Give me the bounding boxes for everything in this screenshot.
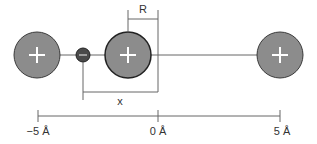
diagram-canvas: R x −5 Å 0 Å 5 Å — [0, 0, 317, 144]
distance-label: x — [117, 95, 123, 107]
center-positive-ion — [105, 32, 151, 78]
right-positive-ion — [257, 32, 303, 78]
axis-tick-label: −5 Å — [27, 125, 51, 137]
axis-tick-label: 0 Å — [150, 125, 167, 137]
electron — [76, 48, 90, 62]
radius-label: R — [139, 3, 147, 15]
axis-tick-label: 5 Å — [274, 125, 291, 137]
distance-axis: −5 Å 0 Å 5 Å — [27, 110, 291, 137]
left-positive-ion — [14, 32, 60, 78]
